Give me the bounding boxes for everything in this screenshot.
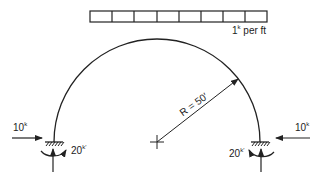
right-moment-label: 20k′	[229, 149, 244, 159]
arch-diagram	[0, 0, 321, 182]
left-horizontal-force-label: 10k	[13, 123, 27, 133]
left-moment-label: 20k′	[71, 146, 86, 156]
radius-line	[157, 79, 238, 142]
distributed-load-label: 1k per ft	[232, 26, 266, 36]
arch-curve	[54, 39, 260, 142]
right-horizontal-force-label: 10k	[295, 123, 309, 133]
left-fixed-support	[45, 142, 64, 146]
right-fixed-support	[251, 142, 270, 146]
distributed-load-bar	[90, 11, 267, 22]
